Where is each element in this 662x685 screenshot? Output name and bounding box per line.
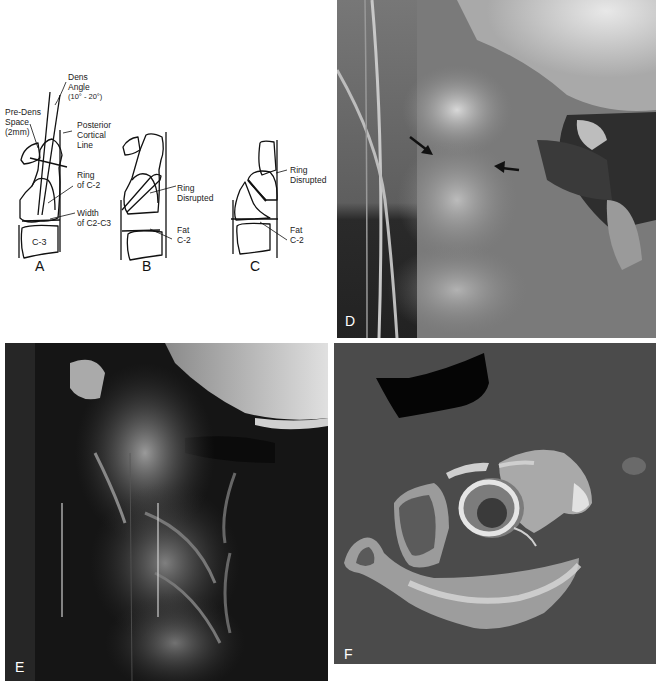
annotation-dens-angle: Dens Angle (10° - 20°)	[68, 72, 102, 102]
label-c3-vertebra: C-3	[32, 237, 47, 247]
panel-label-b: B	[142, 258, 151, 274]
annotation-posterior-cortical-line: Posterior Cortical Line	[77, 120, 111, 150]
diagram-panel: Dens Angle (10° - 20°) Pre-Dens Space (2…	[0, 0, 330, 300]
annotation-ring-disrupted-c: Ring Disrupted	[290, 165, 326, 185]
panel-label-a: A	[35, 258, 44, 274]
annotation-ring-disrupted-b: Ring Disrupted	[177, 183, 213, 203]
annotation-pre-dens-space: Pre-Dens Space (2mm)	[5, 107, 41, 137]
line-drawings	[0, 0, 330, 300]
annotation-width-c2-c3: Width of C2-C3	[77, 208, 111, 228]
panel-label-c: C	[250, 258, 260, 274]
radiograph-panel-d: D	[337, 0, 656, 338]
annotation-fat-c2-b: Fat C-2	[177, 225, 191, 245]
annotation-fat-c2-c: Fat C-2	[290, 225, 304, 245]
radiograph-e-image	[5, 343, 328, 681]
annotation-ring-of-c2: Ring of C-2	[77, 170, 100, 190]
panel-label-d: D	[345, 313, 355, 329]
ct-panel-f: F	[334, 343, 656, 664]
panel-label-e: E	[15, 659, 24, 675]
radiograph-panel-e: E	[5, 343, 328, 681]
panel-label-f: F	[344, 646, 353, 662]
ct-f-image	[334, 343, 656, 664]
radiograph-d-image	[337, 0, 656, 338]
